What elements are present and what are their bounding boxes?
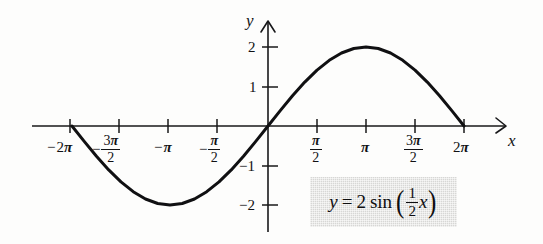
pi-symbol: π (163, 139, 171, 155)
pi-symbol: π (461, 139, 469, 155)
fraction-denominator: 2 (209, 150, 220, 165)
fraction: 3π 2 (404, 134, 423, 165)
minus-sign: − (199, 141, 207, 157)
fraction-denominator: 2 (105, 150, 116, 165)
y-tick-label--2: −2 (239, 198, 255, 213)
equation-text: y = 2 sin ( 1 2 x ) (329, 186, 437, 219)
equation-callout-box: y = 2 sin ( 1 2 x ) (310, 177, 457, 227)
y-tick-label--1: −1 (239, 159, 255, 174)
minus-sign: − (92, 141, 100, 157)
fraction: π 2 (310, 134, 322, 165)
x-tick-label--pi-2: − π 2 (199, 135, 220, 166)
minus-sign: − (154, 139, 162, 155)
sine-function-name: sin (370, 191, 392, 213)
coefficient: 2 (56, 139, 64, 155)
fraction-numerator: 3π (404, 134, 423, 150)
fraction-denominator: 2 (406, 203, 418, 219)
y-tick-label-2: 2 (248, 40, 256, 55)
minus-sign: − (47, 139, 55, 155)
x-tick-label--3pi-2: − 3π 2 (92, 135, 120, 166)
x-tick-label-pi: π (361, 140, 369, 155)
x-axis-label: x (508, 132, 516, 149)
equals-sign: = (342, 191, 353, 213)
fraction: 3π 2 (101, 134, 120, 165)
close-paren: ) (428, 189, 436, 214)
equation-lhs: y (329, 191, 337, 213)
x-tick-label-pi-2: π 2 (310, 135, 322, 166)
fraction-numerator: π (310, 134, 322, 150)
plot-canvas (0, 0, 543, 244)
fraction: π 2 (208, 134, 220, 165)
open-paren: ( (396, 189, 404, 214)
x-tick-label-3pi-2: 3π 2 (404, 135, 423, 166)
one-half-fraction: 1 2 (406, 186, 418, 219)
equation-variable: x (419, 191, 427, 213)
sine-graph-figure: y x −2π − 3π 2 −π − π 2 π 2 π 3π 2 2π (0, 0, 543, 244)
x-tick-label--pi: −π (154, 140, 172, 155)
fraction-numerator: 1 (406, 186, 418, 203)
coefficient: 2 (453, 139, 461, 155)
fraction-numerator: 3π (101, 134, 120, 150)
pi-symbol: π (361, 139, 369, 155)
x-tick-label--2pi: −2π (47, 140, 72, 155)
fraction-numerator: π (208, 134, 220, 150)
y-tick-label-1: 1 (249, 80, 257, 95)
fraction-denominator: 2 (310, 150, 321, 165)
fraction-denominator: 2 (408, 150, 419, 165)
equation-coefficient: 2 (356, 191, 366, 213)
x-tick-label-2pi: 2π (453, 140, 469, 155)
y-axis-label: y (246, 12, 254, 29)
pi-symbol: π (64, 139, 72, 155)
